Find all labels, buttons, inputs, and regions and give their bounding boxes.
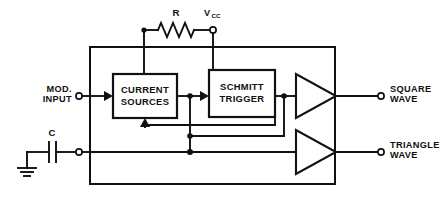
mod-input-arrowhead-icon: [104, 91, 113, 101]
schmitt-trigger-label-line1: SCHMITT: [220, 81, 264, 92]
vcc-label: V: [204, 8, 211, 18]
mod-input-label-line2: INPUT: [43, 94, 72, 104]
triangle-wave-terminal: [378, 149, 384, 155]
square-wave-label-line1: SQUARE: [390, 84, 431, 94]
square-wave-label-line2: WAVE: [390, 94, 418, 104]
function-generator-diagram: R V CC CURRENT SOURCES SCHMITT TRIGGER M…: [0, 0, 442, 207]
square-feedback-junction-dot: [187, 133, 193, 139]
current-sources-bottom-arrowhead-icon: [140, 118, 150, 127]
circuit-schematic: R V CC CURRENT SOURCES SCHMITT TRIGGER M…: [0, 0, 442, 207]
capacitor-label: C: [49, 127, 56, 138]
schmitt-input-arrowhead-icon: [200, 91, 209, 101]
schmitt-trigger-label-line2: TRIGGER: [220, 93, 265, 104]
current-sources-label-line2: SOURCES: [121, 96, 169, 107]
resistor-r-symbol: [158, 23, 194, 37]
vcc-label-subscript: CC: [212, 12, 221, 19]
current-sources-label-line1: CURRENT: [121, 84, 169, 95]
resistor-label: R: [173, 7, 180, 18]
square-wave-terminal: [378, 93, 384, 99]
square-wave-buffer-symbol: [296, 74, 336, 118]
mod-input-label-line1: MOD.: [47, 84, 72, 94]
triangle-wave-label-line2: WAVE: [390, 150, 418, 160]
triangle-wave-buffer-symbol: [296, 130, 336, 174]
triangle-wave-label-line1: TRIANGLE: [390, 140, 440, 150]
